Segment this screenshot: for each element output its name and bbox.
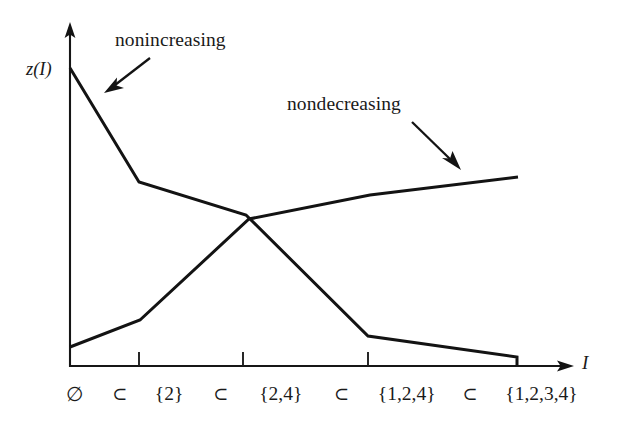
chain-node-3: {1,2,4} xyxy=(368,383,445,405)
annotation-nondecreasing: nondecreasing xyxy=(287,94,401,114)
nondecreasing-pointer-arrow xyxy=(412,122,461,170)
chain-relation-0: ⊂ xyxy=(97,383,143,405)
chain-relation-1: ⊂ xyxy=(195,383,247,405)
annotation-nonincreasing: nonincreasing xyxy=(115,30,226,50)
chain-relation-2: ⊂ xyxy=(315,383,369,405)
chain-relation-3: ⊂ xyxy=(445,383,495,405)
chain-node-1: {2} xyxy=(143,383,195,405)
x-axis-chain-labels: ∅ ⊂ {2} ⊂ {2,4} ⊂ {1,2,4} ⊂ {1,2,3,4} xyxy=(52,381,588,407)
chain-node-0: ∅ xyxy=(52,383,97,406)
x-axis-ticks xyxy=(139,352,368,366)
x-axis-label: I xyxy=(582,353,588,372)
chain-node-4: {1,2,3,4} xyxy=(495,383,588,405)
figure-container: z(I) I nonincreasing nondecreasing ∅ ⊂ {… xyxy=(0,0,620,433)
chart-canvas xyxy=(0,0,620,433)
y-axis-label: z(I) xyxy=(26,60,52,79)
nonincreasing-pointer-arrow xyxy=(104,58,150,93)
chain-node-2: {2,4} xyxy=(247,383,315,405)
x-axis xyxy=(70,360,574,371)
